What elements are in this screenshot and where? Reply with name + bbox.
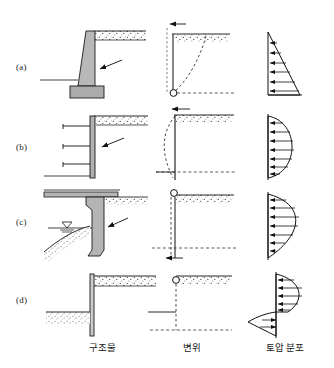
dredge-side-soil-d: [46, 312, 90, 324]
row-b-displacement: [156, 109, 236, 180]
gravity-wall-stem-a: [78, 31, 95, 86]
deflected-shape-a: [174, 36, 206, 92]
column-label-pressure: 토압 분포: [240, 340, 330, 354]
row-label-c: (c): [16, 217, 27, 227]
row-b-pressure: [268, 114, 294, 180]
row-label-b: (b): [16, 142, 27, 152]
soil-backfill-disp-b: [176, 115, 232, 123]
soil-backfill-a: [94, 31, 146, 40]
braced-wall-b: [90, 116, 95, 178]
soil-backfill-disp-a: [174, 34, 228, 42]
wall-footing-a: [70, 86, 104, 98]
row-d-displacement: [148, 276, 232, 330]
row-c-structure: [44, 190, 148, 262]
pressure-arrow-c: [108, 218, 128, 227]
strut-group-b: [63, 124, 90, 167]
sheet-pile-wall-d: [90, 274, 94, 336]
soil-backfill-c: [104, 197, 148, 205]
deflected-shape-b: [164, 116, 175, 178]
row-a-structure: [40, 31, 146, 98]
diagram-svg: [0, 0, 334, 368]
pivot-circle-d: [173, 277, 180, 284]
column-label-structure: 구조물: [52, 340, 152, 354]
pressure-arrow-b: [102, 138, 124, 147]
pressure-parabola-b: [268, 116, 292, 178]
column-label-displacement: 변위: [152, 340, 232, 354]
figure-canvas: (a) (b) (c) (d): [0, 0, 334, 368]
soil-backfill-b: [96, 116, 148, 125]
row-c-displacement: [152, 190, 236, 258]
row-a-displacement: [167, 24, 236, 96]
pressure-arrow-a: [100, 60, 122, 69]
pivot-circle-c: [171, 190, 178, 197]
row-label-d: (d): [16, 295, 27, 305]
water-table-icon-c: [62, 222, 72, 228]
pressure-lower-lobe-d: [248, 312, 276, 336]
row-c-pressure: [268, 192, 299, 260]
pressure-triangle-a: [268, 32, 300, 95]
pivot-circle-a: [170, 90, 177, 97]
sloped-soil-fill-c: [44, 226, 90, 262]
row-d-pressure: [248, 272, 302, 338]
row-d-structure: [46, 274, 156, 336]
row-b-structure: [44, 116, 148, 178]
soil-backfill-disp-c: [176, 195, 232, 203]
soil-backfill-disp-d: [178, 276, 230, 284]
soil-backfill-d: [94, 276, 156, 286]
row-label-a: (a): [16, 62, 27, 72]
deck-slab-c: [44, 192, 118, 197]
row-a-pressure: [268, 32, 302, 95]
